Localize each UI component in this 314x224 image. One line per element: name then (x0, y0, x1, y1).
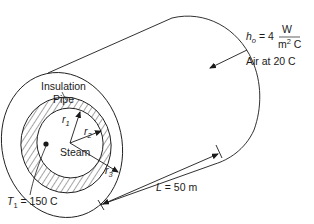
svg-text:m2 C: m2 C (278, 37, 302, 50)
t1-measurement-point (43, 141, 48, 146)
air-label: Air at 20 C (246, 55, 296, 67)
air-flow-arrow (210, 50, 247, 68)
pipe-label: Pipe (53, 93, 74, 105)
insulation-label: Insulation (41, 80, 86, 92)
insulated-pipe-diagram: Insulation Pipe r1 r2 r3 Steam T1 = 150 … (0, 0, 314, 224)
svg-text:ho = 4: ho = 4 (246, 30, 274, 45)
length-label: L = 50 m (156, 181, 197, 193)
convection-coefficient-label: ho = 4 W m2 C (246, 23, 302, 50)
svg-text:W: W (282, 23, 292, 35)
steam-label: Steam (60, 146, 91, 158)
